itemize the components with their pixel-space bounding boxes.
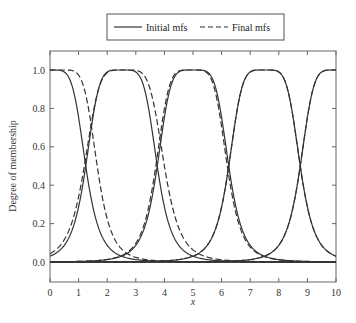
initial-mf-curve xyxy=(50,70,336,262)
x-axis-label: x xyxy=(190,296,196,307)
x-tick-label: 0 xyxy=(48,287,53,298)
y-tick-label: 0.2 xyxy=(33,218,46,229)
x-tick-label: 9 xyxy=(305,287,310,298)
legend-initial-label: Initial mfs xyxy=(146,22,187,33)
final-mf-curve xyxy=(50,70,336,262)
x-tick-label: 8 xyxy=(276,287,281,298)
initial-mf-curve xyxy=(50,70,336,262)
x-tick-label: 4 xyxy=(162,287,167,298)
legend-final-label: Final mfs xyxy=(232,22,270,33)
initial-mf-curve xyxy=(50,70,336,262)
final-mf-curve xyxy=(50,70,336,262)
y-tick-label: 0.0 xyxy=(33,257,46,268)
x-tick-label: 7 xyxy=(248,287,253,298)
final-mf-curve xyxy=(50,70,336,262)
membership-curves xyxy=(50,70,336,262)
x-tick-label: 2 xyxy=(105,287,110,298)
y-tick-label: 0.4 xyxy=(33,180,46,191)
plot-area xyxy=(50,51,336,282)
y-axis-label: Degree of membership xyxy=(7,120,18,212)
final-mf-curve xyxy=(50,70,336,262)
y-tick-label: 1.0 xyxy=(33,65,46,76)
x-tick-label: 1 xyxy=(76,287,81,298)
x-tick-label: 3 xyxy=(133,287,138,298)
x-tick-label: 6 xyxy=(219,287,224,298)
initial-mf-curve xyxy=(50,70,336,262)
legend: Initial mfs Final mfs xyxy=(107,14,284,40)
y-tick-label: 0.6 xyxy=(33,141,46,152)
x-tick-label: 10 xyxy=(331,287,341,298)
final-mf-curve xyxy=(50,70,336,262)
initial-mf-curve xyxy=(50,70,336,262)
y-tick-label: 0.8 xyxy=(33,103,46,114)
membership-function-chart: Initial mfs Final mfs 0123456789100.00.2… xyxy=(0,0,356,323)
